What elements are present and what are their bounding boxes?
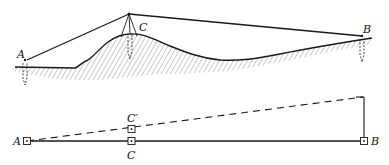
station-marker-b — [361, 138, 368, 145]
label-bottom-c-prime: C′ — [127, 112, 138, 125]
terrain-profile: A C B — [15, 13, 372, 86]
dashed-line-a-to-offset — [27, 97, 363, 141]
station-marker-c-prime — [128, 126, 135, 133]
plan-view: A C C′ B — [12, 97, 379, 162]
label-top-b: B — [362, 23, 371, 36]
survey-diagram: A C B A C C′ B — [0, 0, 389, 165]
label-bottom-c: C — [127, 149, 136, 162]
label-bottom-a: A — [12, 135, 21, 148]
station-marker-a — [24, 138, 31, 145]
label-top-a: A — [16, 48, 25, 61]
label-top-c: C — [139, 21, 148, 34]
sight-line-apex-to-b — [129, 14, 362, 36]
station-marker-c — [128, 138, 135, 145]
label-bottom-b: B — [370, 135, 379, 148]
